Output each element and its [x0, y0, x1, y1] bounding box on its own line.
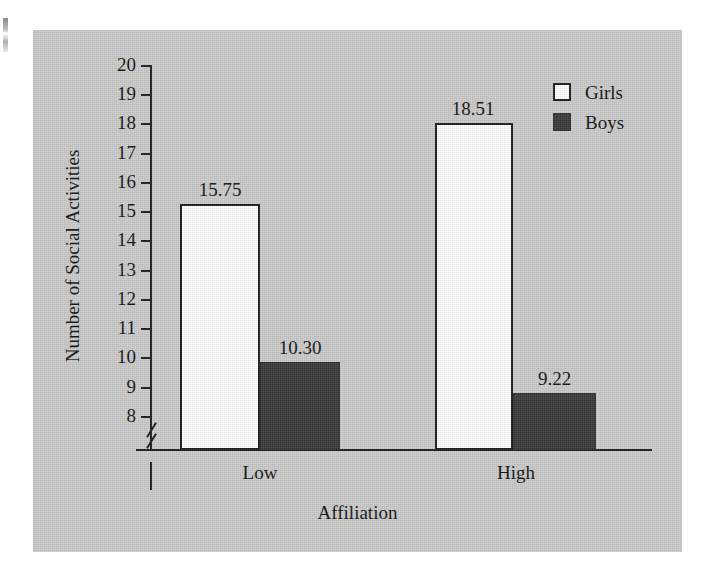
bar-boys-high[interactable]	[513, 393, 596, 450]
y-tick-label: 20	[92, 55, 136, 74]
y-tick-label: 17	[92, 143, 136, 162]
y-tick-label: 8	[92, 406, 136, 425]
bar-value-label: 15.75	[180, 180, 260, 199]
y-tick-label: 9	[92, 377, 136, 396]
y-tick-label: 18	[92, 113, 136, 132]
y-tick-14: 14	[33, 240, 152, 242]
y-tick-label: 13	[92, 260, 136, 279]
y-tick-20: 20	[33, 65, 152, 67]
y-tick-16: 16	[33, 182, 152, 184]
x-category-label-low: Low	[220, 462, 300, 484]
chart-figure-panel: Number of Social Activities 20 19 18 17 …	[33, 30, 682, 552]
y-tick-19: 19	[33, 94, 152, 96]
y-axis-title: Number of Social Activities	[62, 86, 84, 426]
legend-swatch-boys-icon	[553, 113, 571, 131]
scan-artifact	[3, 18, 8, 52]
y-tick-11: 11	[33, 328, 152, 330]
y-tick-label: 15	[92, 201, 136, 220]
y-tick-10: 10	[33, 357, 152, 359]
legend-swatch-girls-icon	[553, 83, 571, 101]
bar-value-label: 18.51	[433, 99, 513, 118]
y-tick-9: 9	[33, 387, 152, 389]
y-axis-lower-stub	[150, 462, 152, 490]
y-tick-label: 19	[92, 84, 136, 103]
legend-label: Girls	[585, 83, 623, 102]
bar-girls-low[interactable]	[180, 204, 260, 450]
y-tick-15: 15	[33, 211, 152, 213]
legend-item-girls[interactable]: Girls	[553, 77, 673, 107]
y-tick-18: 18	[33, 123, 152, 125]
y-tick-label: 11	[92, 318, 136, 337]
y-tick-label: 16	[92, 172, 136, 191]
y-tick-13: 13	[33, 270, 152, 272]
legend-label: Boys	[585, 113, 624, 132]
bar-boys-low[interactable]	[260, 362, 340, 450]
y-tick-label: 14	[92, 230, 136, 249]
y-tick-8: 8	[33, 416, 152, 418]
axis-break-icon	[143, 422, 161, 452]
y-tick-17: 17	[33, 153, 152, 155]
chart-legend: Girls Boys	[553, 77, 673, 137]
y-tick-label: 12	[92, 289, 136, 308]
scanned-page: Number of Social Activities 20 19 18 17 …	[0, 0, 705, 582]
x-axis-title: Affiliation	[33, 502, 682, 524]
bar-girls-high[interactable]	[435, 123, 513, 450]
bar-value-label: 9.22	[513, 369, 596, 388]
y-tick-label: 10	[92, 347, 136, 366]
y-tick-12: 12	[33, 299, 152, 301]
legend-item-boys[interactable]: Boys	[553, 107, 673, 137]
x-category-label-high: High	[476, 462, 556, 484]
bar-value-label: 10.30	[260, 338, 340, 357]
